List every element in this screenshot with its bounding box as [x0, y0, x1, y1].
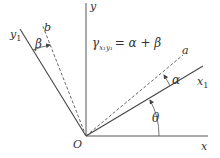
shear-equation: γx₁y₁= α + β	[92, 36, 161, 52]
origin-label: O	[73, 138, 82, 151]
shear-strain-diagram: y x O y1 x1 b a β α θ γx₁y₁= α + β	[0, 0, 220, 158]
y-axis-label: y	[89, 0, 97, 13]
alpha-label: α	[172, 73, 180, 87]
a-line	[86, 55, 183, 136]
beta-label: β	[34, 37, 42, 51]
y1-axis-label: y1	[9, 28, 21, 43]
x-axis-label: x	[201, 140, 208, 153]
theta-label: θ	[152, 111, 160, 125]
b-label: b	[44, 21, 51, 34]
b-line	[42, 24, 86, 136]
y1-axis	[20, 29, 86, 136]
x1-axis	[86, 66, 203, 136]
x1-axis-label: x1	[197, 75, 208, 90]
a-label: a	[182, 44, 189, 57]
alpha-arc	[164, 75, 170, 86]
